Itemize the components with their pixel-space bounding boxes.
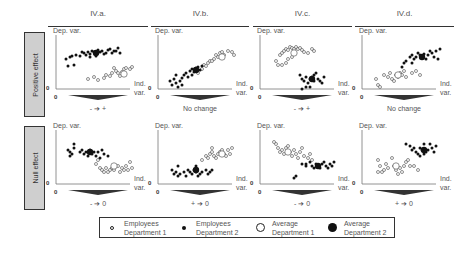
legend-item-average-dept2: AverageDepartment 2: [328, 219, 394, 237]
x-axis-label-line1: Ind.: [236, 175, 248, 182]
legend-label: AverageDepartment 2: [344, 219, 386, 237]
effect-change-label: No change: [354, 105, 454, 112]
axes: [56, 130, 130, 184]
scatter-panel-ivc-row2: Dep. var.Ind.var.00- ➔ 0: [256, 124, 356, 212]
legend-item-employees-dept1: EmployeesDepartment 1: [108, 219, 178, 237]
x-axis-label-line2: var.: [236, 89, 247, 96]
axes: [362, 130, 436, 184]
x-origin-label: 0: [156, 189, 159, 195]
scatter-panel-iva-row2: Dep. var.Ind.var.00- ➔ 0: [52, 124, 152, 212]
x-axis-label-line2: var.: [338, 89, 349, 96]
scatter-plot: [52, 124, 152, 212]
x-axis-label-line1: Ind.: [236, 80, 248, 87]
column-header-iv-c: IV.c.: [253, 9, 352, 18]
x-origin-label: 0: [360, 94, 363, 100]
x-axis-label-line2: var.: [440, 89, 451, 96]
effect-change-label: - ➔ 0: [252, 200, 352, 208]
row-label-text: Positive effect: [31, 53, 38, 96]
scatter-plot: [358, 29, 458, 117]
row-label-text: Null effect: [31, 153, 38, 184]
x-axis-label-line1: Ind.: [134, 80, 146, 87]
x-axis-label-line1: Ind.: [440, 175, 452, 182]
x-origin-label: 0: [360, 189, 363, 195]
x-origin-label: 0: [156, 94, 159, 100]
x-axis-label-line1: Ind.: [338, 80, 350, 87]
y-origin-label: 0: [148, 85, 151, 91]
scatter-panel-ivb-row2: Dep. var.Ind.var.00+ ➔ 0: [154, 124, 254, 212]
y-axis-label: Dep. var.: [359, 27, 387, 34]
y-axis-label: Dep. var.: [359, 122, 387, 129]
scatter-plot: [256, 29, 356, 117]
x-origin-label: 0: [258, 189, 261, 195]
column-header-iv-b: IV.b.: [151, 9, 250, 18]
scatter-panel-ivc-row1: Dep. var.Ind.var.00- ➔ +: [256, 29, 356, 117]
axes: [260, 35, 334, 89]
direction-wedge-icon: [272, 190, 332, 195]
y-origin-label: 0: [148, 180, 151, 186]
effect-change-label: + ➔ 0: [150, 200, 250, 208]
scatter-plot: [358, 124, 458, 212]
y-axis-label: Dep. var.: [257, 122, 285, 129]
scatter-plot: [52, 29, 152, 117]
x-axis-label-line2: var.: [236, 184, 247, 191]
x-axis-label-line1: Ind.: [338, 175, 350, 182]
effect-change-label: + ➔ 0: [354, 200, 454, 208]
direction-wedge-icon: [170, 95, 230, 100]
y-axis-label: Dep. var.: [257, 27, 285, 34]
y-axis-label: Dep. var.: [53, 27, 81, 34]
legend: EmployeesDepartment 1 EmployeesDepartmen…: [99, 217, 395, 238]
x-axis-label-line2: var.: [338, 184, 349, 191]
scatter-panel-ivd-row2: Dep. var.Ind.var.00+ ➔ 0: [358, 124, 458, 212]
row-label-null-effect: Null effect: [24, 126, 45, 210]
y-axis-label: Dep. var.: [155, 122, 183, 129]
legend-label: AverageDepartment 1: [272, 219, 314, 237]
direction-wedge-icon: [374, 95, 434, 100]
x-axis-label-line1: Ind.: [134, 175, 146, 182]
legend-item-employees-dept2: EmployeesDepartment 2: [180, 219, 250, 237]
direction-wedge-icon: [68, 95, 128, 100]
effect-change-label: No change: [150, 105, 250, 112]
legend-item-average-dept1: AverageDepartment 1: [256, 219, 326, 237]
y-origin-label: 0: [352, 85, 355, 91]
scatter-plot: [154, 124, 254, 212]
scatter-panel-ivd-row1: Dep. var.Ind.var.00No change: [358, 29, 458, 117]
y-origin-label: 0: [250, 180, 253, 186]
direction-wedge-icon: [272, 95, 332, 100]
y-origin-label: 0: [250, 85, 253, 91]
column-header-iv-a: IV.a.: [48, 9, 148, 18]
small-filled-circle-icon: [182, 226, 186, 230]
y-axis-label: Dep. var.: [53, 122, 81, 129]
scatter-plot: [154, 29, 254, 117]
x-origin-label: 0: [258, 94, 261, 100]
scatter-plot: [256, 124, 356, 212]
effect-change-label: - ➔ +: [252, 105, 352, 113]
legend-label: EmployeesDepartment 2: [196, 219, 238, 237]
scatter-panel-iva-row1: Dep. var.Ind.var.00- ➔ +: [52, 29, 152, 117]
direction-wedge-icon: [170, 190, 230, 195]
direction-wedge-icon: [374, 190, 434, 195]
y-origin-label: 0: [46, 85, 49, 91]
x-axis-label-line1: Ind.: [440, 80, 452, 87]
effect-change-label: - ➔ +: [48, 105, 148, 113]
scatter-panel-ivb-row1: Dep. var.Ind.var.00No change: [154, 29, 254, 117]
y-axis-label: Dep. var.: [155, 27, 183, 34]
effect-change-label: - ➔ 0: [48, 200, 148, 208]
x-origin-label: 0: [54, 189, 57, 195]
small-open-circle-icon: [110, 226, 114, 230]
x-origin-label: 0: [54, 94, 57, 100]
y-origin-label: 0: [46, 180, 49, 186]
x-axis-label-line2: var.: [134, 89, 145, 96]
x-axis-label-line2: var.: [440, 184, 451, 191]
axes: [56, 35, 130, 89]
axes: [362, 35, 436, 89]
column-header-iv-d: IV.d.: [355, 9, 454, 18]
legend-label: EmployeesDepartment 1: [124, 219, 166, 237]
direction-wedge-icon: [68, 190, 128, 195]
x-axis-label-line2: var.: [134, 184, 145, 191]
y-origin-label: 0: [352, 180, 355, 186]
large-filled-circle-icon: [328, 223, 337, 232]
row-label-positive-effect: Positive effect: [24, 32, 45, 117]
large-open-circle-icon: [256, 223, 265, 232]
